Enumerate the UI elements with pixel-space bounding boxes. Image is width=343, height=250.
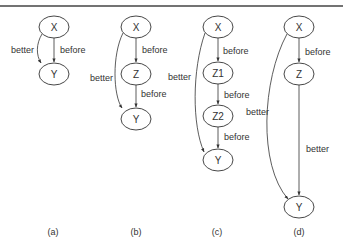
figure-canvas: X Y better before (a) X Z Y before befor… <box>0 0 343 250</box>
caption-c: (c) <box>212 227 223 237</box>
node-y-label: Y <box>51 69 58 80</box>
node-y-label: Y <box>296 202 303 213</box>
panel-d: X Z Y before better better (d) <box>246 16 331 237</box>
edge-label-before: before <box>224 90 250 100</box>
node-z-label: Z <box>133 69 139 80</box>
edge-label-better: better <box>90 73 113 83</box>
edge-better-xy <box>195 33 205 152</box>
edge-label-before: before <box>224 132 250 142</box>
node-x-label: X <box>51 22 58 33</box>
edge-label-before: before <box>223 46 249 56</box>
edge-better-xy <box>267 34 288 199</box>
node-x-label: X <box>296 22 303 33</box>
node-x-label: X <box>133 22 140 33</box>
edge-label-better: better <box>11 45 34 55</box>
edge-label-better: better <box>246 107 269 117</box>
node-z1-label: Z1 <box>212 68 224 79</box>
edge-label-before: before <box>60 45 86 55</box>
edge-label-before: before <box>305 47 331 57</box>
caption-b: (b) <box>131 227 142 237</box>
caption-d: (d) <box>294 227 305 237</box>
node-z-label: Z <box>296 69 302 80</box>
edge-better <box>37 34 42 63</box>
edge-label-better: better <box>168 72 191 82</box>
node-y-label: Y <box>133 114 140 125</box>
panel-a: X Y better before (a) <box>11 16 86 237</box>
node-z2-label: Z2 <box>212 111 224 122</box>
node-y-label: Y <box>215 155 222 166</box>
caption-a: (a) <box>48 227 59 237</box>
edge-label-better: better <box>306 144 329 154</box>
panel-c: X Z1 Z2 Y before before before better (c… <box>168 16 250 237</box>
edge-label-before: before <box>141 89 167 99</box>
edge-label-before: before <box>142 45 168 55</box>
panel-b: X Z Y before before better (b) <box>90 16 168 237</box>
node-x-label: X <box>215 22 222 33</box>
